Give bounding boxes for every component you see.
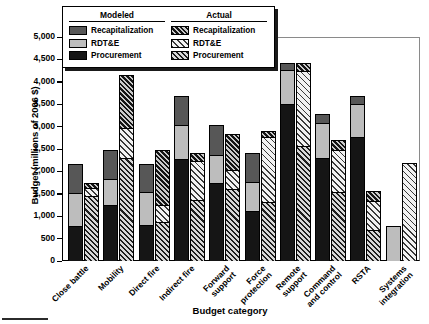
legend-item-label: Recapitalization <box>193 26 255 35</box>
bar-segment-rdte <box>120 128 133 158</box>
bar-segment-recapitalization <box>210 126 223 155</box>
bar-segment-rdte <box>104 179 117 205</box>
bar-group <box>245 36 277 260</box>
bar-group <box>386 36 418 260</box>
bar-segment-procurement <box>367 230 380 261</box>
bar-segment-rdte <box>281 70 294 104</box>
bar-group <box>68 36 100 260</box>
bar-segment-procurement <box>281 104 294 261</box>
legend-item: Procurement <box>171 49 267 61</box>
bar-segment-recapitalization <box>316 115 329 123</box>
bar-group <box>103 36 135 260</box>
legend-swatch-solid-black <box>69 51 87 60</box>
bar-actual <box>155 150 170 260</box>
bar-segment-recapitalization <box>104 151 117 179</box>
bar-segment-rdte <box>226 170 239 189</box>
legend-group-title: Actual <box>171 10 267 22</box>
bar-segment-rdte <box>367 201 380 230</box>
legend-swatch-hatch-dark <box>171 51 189 60</box>
bar-segment-procurement <box>226 189 239 261</box>
chart-figure: Budget (millions of 2006 $) 5,0004,5004,… <box>0 0 429 324</box>
bar-actual <box>402 163 417 260</box>
y-tick-label: 4,000 <box>33 76 55 86</box>
y-tick-label: 2,500 <box>33 143 55 153</box>
bar-segment-procurement <box>69 226 82 261</box>
caption-rule <box>2 318 48 320</box>
bar-segment-procurement <box>210 183 223 261</box>
legend-item-label: Procurement <box>193 51 244 60</box>
bar-actual <box>296 63 311 260</box>
bar-segment-recapitalization <box>332 141 345 150</box>
bar-segment-rdte <box>69 193 82 225</box>
bar-modeled <box>386 226 401 260</box>
legend-item: RDT&E <box>171 37 267 49</box>
bar-segment-recapitalization <box>226 135 239 170</box>
bar-modeled <box>174 96 189 260</box>
y-tick-label: 2,000 <box>33 165 55 175</box>
legend-item-label: Recapitalization <box>91 26 153 35</box>
y-tick-label: 500 <box>41 233 55 243</box>
y-tick-label: 1,000 <box>33 210 55 220</box>
bar-modeled <box>245 153 260 260</box>
bar-segment-rdte <box>403 164 416 261</box>
bar-actual <box>261 131 276 260</box>
bar-segment-recapitalization <box>69 165 82 193</box>
bar-segment-rdte <box>332 150 345 192</box>
bar-segment-procurement <box>316 158 329 261</box>
bar-segment-recapitalization <box>120 76 133 129</box>
legend-group-modeled: ModeledRecapitalizationRDT&EProcurement <box>69 10 165 62</box>
bar-actual <box>366 191 381 260</box>
bar-actual <box>225 134 240 260</box>
y-tick-label: 5,000 <box>33 31 55 41</box>
bar-modeled <box>103 150 118 260</box>
legend-swatch-solid-light-gray <box>69 39 87 48</box>
legend-item-label: Procurement <box>91 51 142 60</box>
bar-segment-recapitalization <box>367 192 380 201</box>
bar-modeled <box>68 164 83 260</box>
bar-segment-procurement <box>156 222 169 261</box>
bar-segment-procurement <box>140 225 153 261</box>
bar-modeled <box>280 63 295 260</box>
bar-segment-recapitalization <box>351 97 364 104</box>
x-axis-title: Budget category <box>120 305 340 316</box>
legend-item: Recapitalization <box>171 25 267 37</box>
bar-group <box>139 36 171 260</box>
chart-legend: ModeledRecapitalizationRDT&EProcurementA… <box>62 6 275 68</box>
bar-segment-procurement <box>262 202 275 261</box>
y-tick-label: 3,000 <box>33 121 55 131</box>
bar-segment-procurement <box>351 137 364 261</box>
bar-segment-rdte <box>387 227 400 261</box>
bar-segment-procurement <box>85 196 98 261</box>
bar-segment-recapitalization <box>175 97 188 124</box>
bar-group <box>315 36 347 260</box>
legend-item-label: RDT&E <box>193 39 221 48</box>
bar-segment-rdte <box>246 182 259 211</box>
bar-segment-rdte <box>351 104 364 137</box>
legend-swatch-hatch-light <box>171 39 189 48</box>
bar-segment-rdte <box>262 137 275 202</box>
legend-item: Recapitalization <box>69 25 165 37</box>
bar-segment-procurement <box>297 146 310 261</box>
y-tick-label: 4,500 <box>33 53 55 63</box>
bar-modeled <box>315 114 330 260</box>
bar-segment-rdte <box>175 125 188 159</box>
legend-group-title: Modeled <box>69 10 165 22</box>
bar-group <box>280 36 312 260</box>
legend-group-actual: ActualRecapitalizationRDT&EProcurement <box>171 10 267 62</box>
bar-segment-rdte <box>156 205 169 223</box>
bar-modeled <box>350 96 365 260</box>
bar-group <box>350 36 382 260</box>
bar-segment-procurement <box>104 205 117 261</box>
y-tick-label: 0 <box>50 255 55 265</box>
bar-segment-recapitalization <box>156 151 169 204</box>
bar-segment-rdte <box>191 161 204 200</box>
bar-segment-rdte <box>210 155 223 183</box>
bar-group <box>174 36 206 260</box>
bar-segment-procurement <box>332 192 345 261</box>
bar-segment-recapitalization <box>191 154 204 161</box>
bar-segment-recapitalization <box>246 154 259 182</box>
legend-item: RDT&E <box>69 37 165 49</box>
bar-actual <box>190 153 205 260</box>
y-tick-label: 1,500 <box>33 188 55 198</box>
bar-segment-procurement <box>175 159 188 261</box>
